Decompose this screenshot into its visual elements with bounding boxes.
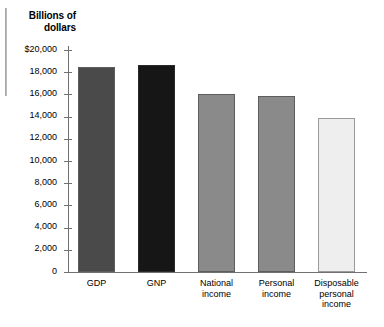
y-tick-label: $20,000 — [24, 44, 57, 54]
y-tick-label: 2,000 — [34, 243, 57, 253]
y-tick-label: 0 — [52, 266, 57, 276]
category-label: National income — [187, 278, 246, 299]
y-tick-label: 6,000 — [34, 199, 57, 209]
y-tick-label: 10,000 — [29, 155, 57, 165]
y-tick-label: 12,000 — [29, 132, 57, 142]
y-tick-label: 18,000 — [29, 66, 57, 76]
chart-axis-title: Billions of dollars — [8, 10, 76, 33]
category-label: Personal income — [247, 278, 306, 299]
plot-area — [68, 50, 365, 272]
y-tick-label: 8,000 — [34, 177, 57, 187]
bar-gdp — [78, 67, 115, 272]
x-axis-line — [68, 272, 367, 273]
y-tick-mark — [64, 272, 72, 273]
y-tick-label: 16,000 — [29, 88, 57, 98]
y-tick-label: 14,000 — [29, 110, 57, 120]
category-label: GDP — [67, 278, 126, 289]
bar-national-income — [198, 94, 235, 272]
category-label: Disposable personal income — [307, 278, 366, 310]
category-label: GNP — [127, 278, 186, 289]
bar-chart: Billions of dollars $20,00018,00016,0001… — [0, 0, 384, 327]
bar-disposable-personal-income — [318, 118, 355, 272]
bar-gnp — [138, 65, 175, 272]
bar-personal-income — [258, 96, 295, 272]
y-tick-label: 4,000 — [34, 221, 57, 231]
